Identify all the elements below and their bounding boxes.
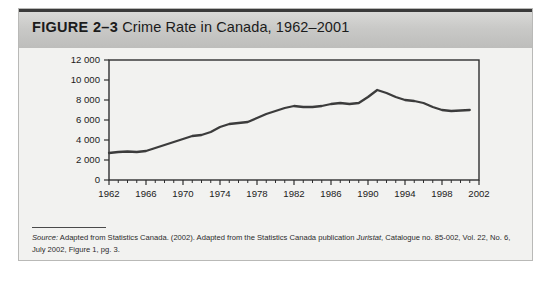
source-publication: Juristat <box>357 233 381 242</box>
source-rule-divider <box>32 227 106 228</box>
figure-header: FIGURE 2–3 Crime Rate in Canada, 1962–20… <box>19 9 532 48</box>
svg-text:1966: 1966 <box>135 188 156 199</box>
y-axis-tick-labels: 02 0004 0006 0008 00010 00012 000 <box>71 54 100 185</box>
svg-text:8 000: 8 000 <box>76 94 100 105</box>
svg-text:4 000: 4 000 <box>76 134 100 145</box>
chart-body: 02 0004 0006 0008 00010 00012 000 196219… <box>19 48 532 220</box>
svg-text:0: 0 <box>95 174 100 185</box>
figure-title: FIGURE 2–3 Crime Rate in Canada, 1962–20… <box>32 19 349 35</box>
svg-text:1962: 1962 <box>98 188 119 199</box>
crime-rate-line-chart: 02 0004 0006 0008 00010 00012 000 196219… <box>19 48 534 220</box>
figure-number: FIGURE 2–3 <box>32 19 118 35</box>
svg-text:10 000: 10 000 <box>71 74 100 85</box>
svg-text:1970: 1970 <box>172 188 193 199</box>
svg-text:1998: 1998 <box>431 188 452 199</box>
svg-text:2002: 2002 <box>468 188 489 199</box>
figure-panel: FIGURE 2–3 Crime Rate in Canada, 1962–20… <box>18 8 533 261</box>
source-text: Source: Adapted from Statistics Canada. … <box>32 232 520 256</box>
crime-rate-series-line <box>109 90 470 153</box>
svg-text:1982: 1982 <box>283 188 304 199</box>
svg-text:2 000: 2 000 <box>76 154 100 165</box>
svg-text:1978: 1978 <box>246 188 267 199</box>
svg-text:1994: 1994 <box>394 188 416 199</box>
source-note: Source: Adapted from Statistics Canada. … <box>32 227 520 256</box>
svg-text:6 000: 6 000 <box>76 114 100 125</box>
figure-title-text: Crime Rate in Canada, 1962–2001 <box>122 19 349 35</box>
svg-text:12 000: 12 000 <box>71 54 100 65</box>
svg-text:1986: 1986 <box>320 188 341 199</box>
source-body-before: Adapted from Statistics Canada. (2002). … <box>58 233 356 242</box>
source-label: Source: <box>32 233 58 242</box>
plot-area-frame <box>109 60 479 180</box>
y-axis-ticks <box>104 60 109 180</box>
svg-text:1990: 1990 <box>357 188 378 199</box>
svg-text:1974: 1974 <box>209 188 231 199</box>
x-axis-tick-labels: 1962196619701974197819821986199019941998… <box>98 188 489 199</box>
